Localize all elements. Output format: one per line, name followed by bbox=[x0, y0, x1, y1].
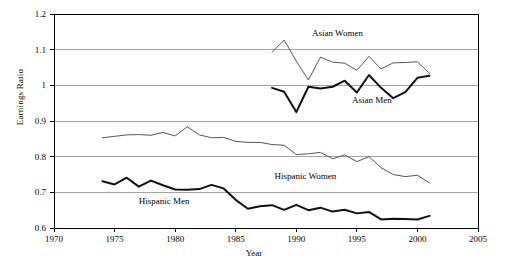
series-line-hispanic-men bbox=[102, 178, 429, 220]
series-line-asian-men bbox=[272, 75, 429, 112]
series-line-hispanic-women bbox=[102, 127, 429, 183]
earnings-ratio-line-chart: Earnings Ratio Year 0.60.70.80.911.11.2 … bbox=[0, 0, 508, 268]
plot-area bbox=[0, 0, 508, 268]
series-line-asian-women bbox=[272, 40, 429, 80]
